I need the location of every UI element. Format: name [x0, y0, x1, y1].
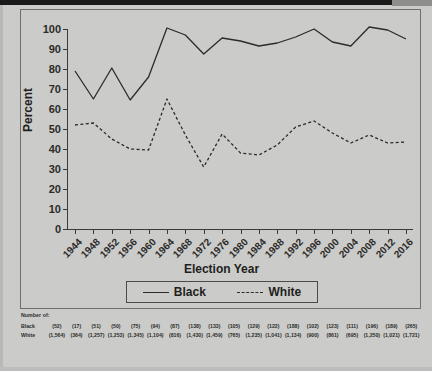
footnote-cell: (695) — [342, 332, 362, 338]
footnote-table: Number of: Black(52)(17)(51)(50)(75)(94)… — [21, 312, 421, 341]
chart-legend: Black White — [126, 281, 318, 303]
footnote-cell: (122) — [264, 323, 284, 329]
footnote-cell: (52) — [47, 323, 67, 329]
scan-artifact-top-edge — [0, 0, 432, 5]
y-axis-tick-label: 30 — [49, 164, 61, 175]
footnote-cell: (1,257) — [86, 332, 106, 338]
footnote-cell: (189) — [382, 323, 402, 329]
footnote-cell: (816) — [165, 332, 185, 338]
scan-artifact-bottom-edge — [0, 367, 432, 371]
footnote-title: Number of: — [21, 312, 421, 318]
y-axis-title: Percent — [21, 88, 35, 132]
footnote-row: White(1,564)(364)(1,257)(1,253)(1,345)(1… — [21, 332, 421, 341]
footnote-cell: (1,250) — [362, 332, 382, 338]
footnote-cells: (52)(17)(51)(50)(75)(94)(87)(138)(133)(1… — [47, 323, 421, 329]
series-line-black — [75, 27, 406, 100]
footnote-cell: (1,345) — [126, 332, 146, 338]
series-line-white — [75, 99, 406, 167]
y-axis-tick-label: 40 — [49, 144, 61, 155]
footnote-row-label: Black — [21, 323, 47, 329]
footnote-cell: (94) — [145, 323, 165, 329]
y-axis-tick-label: 80 — [49, 64, 61, 75]
y-axis-tick-label: 60 — [49, 104, 61, 115]
scanned-page: Percent 0102030405060708090100 194419481… — [0, 0, 432, 371]
footnote-cell: (17) — [67, 323, 87, 329]
footnote-cell: (188) — [283, 323, 303, 329]
scan-artifact-left-edge — [0, 5, 3, 371]
footnote-cell: (51) — [86, 323, 106, 329]
footnote-cell: (1,253) — [106, 332, 126, 338]
plot-area: 0102030405060708090100 19441948195219561… — [67, 29, 412, 229]
footnote-cell: (1,134) — [283, 332, 303, 338]
footnote-cell: (1,564) — [47, 332, 67, 338]
footnote-cell: (900) — [303, 332, 323, 338]
footnote-cell: (265) — [401, 323, 421, 329]
legend-line-solid-icon — [143, 292, 169, 293]
footnote-cell: (765) — [224, 332, 244, 338]
footnote-cell: (196) — [362, 323, 382, 329]
footnote-row-label: White — [21, 332, 47, 338]
footnote-cell: (129) — [244, 323, 264, 329]
scan-artifact-top-right — [392, 0, 432, 6]
footnote-cell: (1,021) — [382, 332, 402, 338]
footnote-cell: (861) — [323, 332, 343, 338]
footnote-cell: (1,104) — [145, 332, 165, 338]
legend-line-dashed-icon — [237, 292, 263, 293]
legend-item-white: White — [237, 285, 301, 299]
footnote-cell: (75) — [126, 323, 146, 329]
footnote-cell: (123) — [323, 323, 343, 329]
footnote-cell: (1,459) — [205, 332, 225, 338]
y-axis-tick-label: 10 — [49, 204, 61, 215]
y-axis-tick-label: 50 — [49, 124, 61, 135]
footnote-cell: (102) — [303, 323, 323, 329]
footnote-cell: (1,041) — [264, 332, 284, 338]
footnote-cell: (87) — [165, 323, 185, 329]
chart-figure: Percent 0102030405060708090100 194419481… — [20, 9, 421, 309]
y-axis-tick-label: 70 — [49, 84, 61, 95]
legend-label-white: White — [268, 285, 301, 299]
footnote-cell: (364) — [67, 332, 87, 338]
footnote-cell: (1,430) — [185, 332, 205, 338]
footnote-cell: (105) — [224, 323, 244, 329]
y-axis-tick-label: 0 — [55, 224, 61, 235]
footnote-cell: (1,721) — [401, 332, 421, 338]
footnote-rows: Black(52)(17)(51)(50)(75)(94)(87)(138)(1… — [21, 323, 421, 341]
y-axis-tick-label: 90 — [49, 44, 61, 55]
y-axis-tick-label: 20 — [49, 184, 61, 195]
footnote-cell: (133) — [205, 323, 225, 329]
legend-label-black: Black — [174, 285, 206, 299]
footnote-row: Black(52)(17)(51)(50)(75)(94)(87)(138)(1… — [21, 323, 421, 332]
footnote-cell: (1,235) — [244, 332, 264, 338]
legend-item-black: Black — [143, 285, 206, 299]
y-axis-tick-label: 100 — [43, 24, 61, 35]
footnote-cells: (1,564)(364)(1,257)(1,253)(1,345)(1,104)… — [47, 332, 421, 338]
footnote-cell: (138) — [185, 323, 205, 329]
series-plot — [67, 29, 413, 230]
x-axis-title: Election Year — [21, 262, 422, 276]
footnote-cell: (111) — [342, 323, 362, 329]
footnote-cell: (50) — [106, 323, 126, 329]
